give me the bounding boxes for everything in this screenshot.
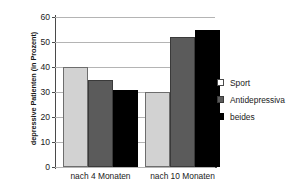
bar-nach-4-monaten-antidepressiva [88, 80, 113, 168]
y-tick-label-60: 60 [40, 12, 50, 22]
y-tick-60 [52, 17, 55, 18]
x-axis-label-1: nach 10 Monaten [138, 171, 228, 181]
plot-area: 0102030405060 [55, 17, 215, 167]
gridline-y-60: 60 [55, 17, 215, 18]
legend-swatch-icon-antidepressiva [217, 96, 224, 103]
bar-nach-10-monaten-antidepressiva [170, 37, 195, 167]
y-tick-label-20: 20 [40, 112, 50, 122]
bar-nach-10-monaten-sport [145, 92, 170, 167]
bar-nach-4-monaten-beides [113, 90, 138, 168]
y-tick-30 [52, 92, 55, 93]
legend-item-sport[interactable]: Sport [217, 74, 285, 91]
y-tick-50 [52, 42, 55, 43]
y-axis-title: depressive Patienten (in Prozent) [29, 9, 38, 169]
legend-label: Sport [230, 78, 250, 88]
y-tick-0 [52, 167, 55, 168]
bar-chart: depressive Patienten (in Prozent) 010203… [0, 0, 295, 191]
x-axis-label-0: nach 4 Monaten [56, 171, 146, 181]
y-tick-label-30: 30 [40, 87, 50, 97]
gridline-y-0: 0 [55, 167, 215, 168]
y-tick-label-50: 50 [40, 37, 50, 47]
y-tick-label-10: 10 [40, 137, 50, 147]
y-tick-10 [52, 142, 55, 143]
chart-legend: SportAntidepressivabeides [217, 74, 285, 125]
y-tick-40 [52, 67, 55, 68]
legend-swatch-icon-beides [217, 113, 224, 120]
y-tick-label-0: 0 [45, 162, 50, 172]
legend-item-antidepressiva[interactable]: Antidepressiva [217, 91, 285, 108]
legend-label: Antidepressiva [230, 95, 285, 105]
legend-swatch-icon-sport [217, 79, 224, 86]
y-tick-label-40: 40 [40, 62, 50, 72]
legend-label: beides [230, 112, 255, 122]
y-tick-20 [52, 117, 55, 118]
bar-nach-4-monaten-sport [63, 67, 88, 167]
legend-item-beides[interactable]: beides [217, 108, 285, 125]
